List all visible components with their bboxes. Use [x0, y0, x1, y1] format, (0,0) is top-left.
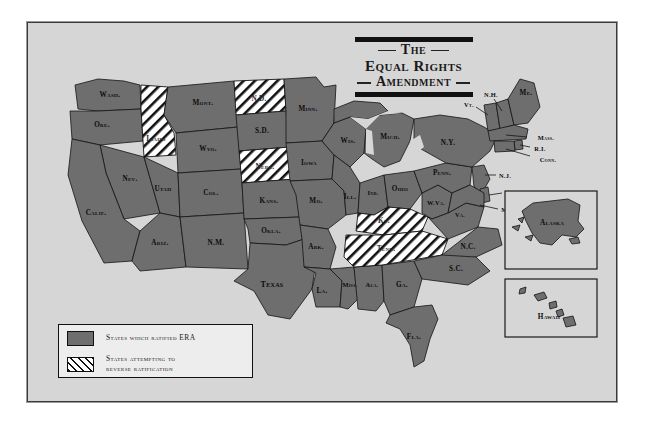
label-hawaii: Hawaii [538, 313, 560, 321]
title-rule-right-2 [456, 82, 470, 84]
label-col: Col. [203, 189, 218, 197]
label-ky: Ky. [378, 217, 390, 225]
leader-line-conn [506, 149, 530, 156]
label-vt: Vt. [464, 101, 474, 108]
label-nebr: Nebr. [256, 163, 275, 171]
label-nh: N.H. [484, 91, 498, 98]
label-texas: Texas [261, 280, 284, 289]
label-fla: Fla. [407, 333, 421, 341]
label-la: La. [316, 287, 327, 295]
title-rule-right [431, 50, 449, 52]
title-word-equal-rights: Equal Rights [365, 59, 462, 75]
title-bar-bottom [355, 92, 473, 97]
label-wash: Wash. [100, 91, 121, 99]
label-mo: Mo. [309, 197, 322, 205]
label-wis: Wis. [341, 137, 356, 145]
label-conn: Conn. [540, 156, 557, 163]
label-iowa: Iowa [301, 159, 317, 167]
label-ark: Ark. [308, 243, 324, 251]
map-title: The Equal Rights Amendment [346, 37, 481, 97]
label-ariz: Ariz. [151, 239, 168, 247]
label-ind: Ind. [367, 189, 378, 196]
label-nev: Nev. [122, 175, 137, 183]
label-mont: Mont. [193, 99, 214, 107]
label-wva: W.Va. [427, 199, 445, 206]
label-miss: Miss. [342, 281, 357, 288]
label-alaska: Alaska [540, 219, 564, 227]
legend-label-reversing-line1: States attempting to [106, 354, 175, 363]
legend-item-ratified: States which ratified ERA [59, 325, 252, 351]
legend-label-reversing-line2: reverse ratification [106, 364, 173, 373]
legend-swatch-hatch [67, 357, 94, 372]
label-calif: Calif. [86, 209, 107, 217]
label-utah: Utah [155, 185, 172, 193]
label-ill: Ill. [344, 193, 356, 201]
title-line-amendment: Amendment [346, 75, 481, 90]
label-nd: N.D. [251, 95, 266, 103]
legend-swatch-solid [67, 331, 94, 346]
title-word-amendment: Amendment [376, 75, 451, 90]
title-line-the: The [346, 43, 481, 58]
legend-label-ratified: States which ratified ERA [106, 333, 195, 343]
label-ala: Ala. [366, 281, 379, 288]
label-ny: N.Y. [441, 139, 456, 147]
label-nj: N.J. [499, 172, 511, 179]
label-me: Me. [520, 89, 533, 97]
legend: States which ratified ERA States attempt… [58, 324, 253, 378]
label-okla: Okla. [261, 227, 281, 235]
map-frame: Wash. Ore. Idaho Mont. Wyo. Nev. Calif. … [27, 22, 617, 402]
state-montana[interactable] [164, 81, 238, 133]
title-rule-left [378, 50, 396, 52]
label-va: Va. [455, 211, 465, 218]
state-maine[interactable] [508, 79, 540, 125]
label-wyo: Wyo. [199, 145, 217, 153]
label-nc: N.C. [460, 243, 475, 251]
legend-item-reversing: States attempting to reverse ratificatio… [59, 351, 252, 377]
label-mass: Mass. [538, 134, 555, 141]
label-sc: S.C. [449, 265, 463, 273]
leader-line-del [489, 193, 502, 195]
label-kans: Kans. [260, 197, 279, 205]
label-penn: Penn. [433, 169, 451, 177]
label-ore: Ore. [94, 121, 110, 129]
label-sd: S.D. [255, 127, 269, 135]
label-ga: Ga. [396, 281, 408, 289]
label-ri: R.I. [534, 145, 546, 152]
legend-label-reversing: States attempting to reverse ratificatio… [106, 354, 175, 374]
label-nm: N.M. [208, 239, 225, 247]
label-tenn: Tenn. [377, 245, 396, 253]
state-newyork[interactable] [414, 115, 498, 167]
title-rule-left-2 [357, 82, 371, 84]
title-word-the: The [401, 43, 426, 58]
label-ohio: Ohio [392, 185, 409, 193]
label-minn: Minn. [298, 105, 317, 113]
label-idaho: Idaho [146, 135, 165, 143]
state-alabama[interactable] [354, 265, 384, 311]
title-line-equal-rights: Equal Rights [346, 59, 481, 75]
label-mich: Mich. [380, 133, 400, 141]
